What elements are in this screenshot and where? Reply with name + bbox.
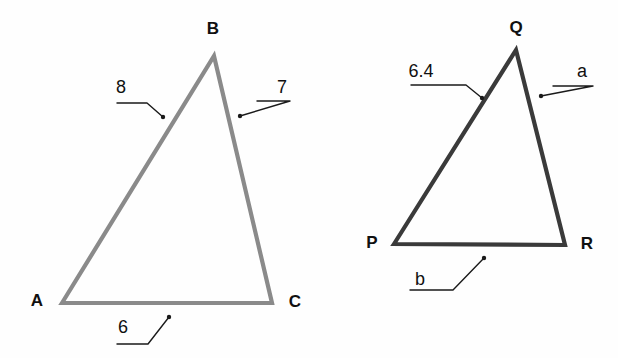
side-qr-length-leader xyxy=(539,86,593,98)
side-bc-length-leader-dot xyxy=(238,114,242,118)
vertex-label-B: B xyxy=(207,20,219,37)
side-pq-length-leader-line xyxy=(411,85,482,98)
vertex-label-C: C xyxy=(289,293,301,310)
side-ac-length: 6 xyxy=(118,318,128,336)
side-qr-length-leader-dot xyxy=(539,94,543,98)
vertex-label-R: R xyxy=(581,235,593,252)
side-ab-length-leader xyxy=(117,103,165,119)
vertex-label-Q: Q xyxy=(509,19,522,36)
side-ab-length-leader-line xyxy=(117,103,163,117)
geometry-figure-canvas: ABC876PQR6.4ab xyxy=(0,0,618,358)
side-pr-length-leader-dot xyxy=(482,256,486,260)
side-bc-length-leader-line xyxy=(240,101,290,116)
side-pr-length: b xyxy=(415,270,425,288)
figure-svg xyxy=(0,0,618,358)
triangle-abc-outline xyxy=(62,56,272,303)
side-pq-length: 6.4 xyxy=(408,62,433,80)
side-ac-length-leader-dot xyxy=(167,315,171,319)
vertex-label-A: A xyxy=(31,292,43,309)
vertex-label-P: P xyxy=(366,234,377,251)
side-pq-length-leader-dot xyxy=(480,96,484,100)
side-ab-length-leader-dot xyxy=(161,115,165,119)
side-pq-length-leader xyxy=(411,85,484,100)
side-bc-length: 7 xyxy=(277,78,287,96)
side-qr-length: a xyxy=(577,62,587,80)
side-ab-length: 8 xyxy=(116,78,126,96)
side-bc-length-leader xyxy=(238,101,290,118)
triangle-abc xyxy=(62,56,272,303)
side-qr-length-leader-line xyxy=(541,86,593,96)
